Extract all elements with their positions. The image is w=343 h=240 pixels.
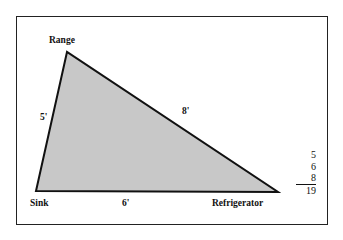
- sum-term: 6: [296, 161, 316, 173]
- refrigerator-label: Refrigerator: [212, 198, 263, 208]
- sum-term: 5: [296, 149, 316, 161]
- sum-term: 8: [296, 172, 316, 184]
- sink-label: Sink: [30, 198, 49, 208]
- range-label: Range: [49, 35, 75, 45]
- sum-total: 19: [296, 184, 316, 197]
- sink-refrigerator-distance: 6': [122, 198, 129, 208]
- range-refrigerator-distance: 8': [182, 106, 189, 116]
- range-sink-distance: 5': [40, 112, 47, 122]
- distance-sum: 5 6 8 19: [296, 149, 316, 196]
